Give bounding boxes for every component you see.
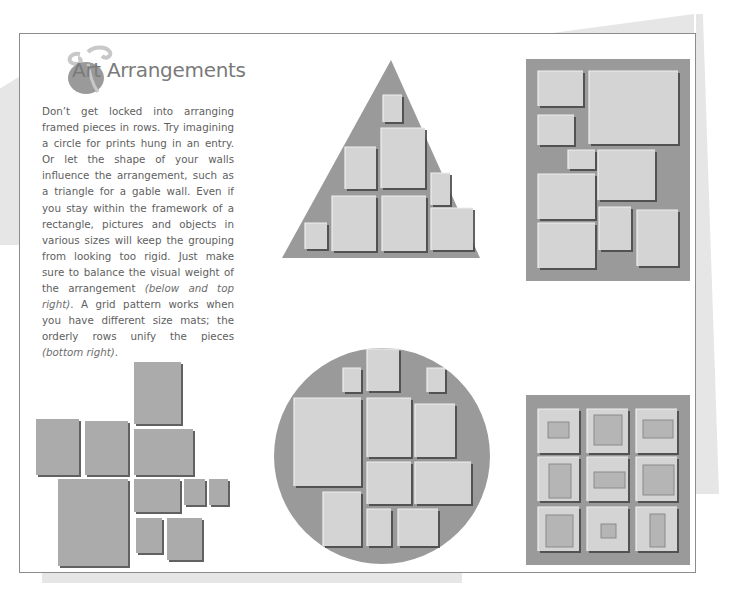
picture-frame	[538, 71, 583, 106]
grid-arrangement	[526, 395, 690, 565]
picture-frame	[367, 398, 411, 457]
picture-frame	[398, 509, 438, 546]
picture-frame	[345, 147, 376, 189]
picture-frame	[599, 207, 631, 250]
mat-opening	[548, 422, 569, 438]
matted-frame	[636, 409, 677, 453]
picture-frame	[294, 398, 361, 486]
matted-frame	[636, 457, 677, 501]
picture-frame	[134, 429, 193, 475]
picture-frame	[598, 150, 655, 200]
picture-frame	[381, 128, 425, 188]
mat-opening	[546, 515, 573, 547]
picture-frame	[209, 479, 228, 505]
triangle-arrangement	[282, 60, 480, 258]
picture-frame	[589, 71, 678, 144]
picture-frame	[343, 368, 361, 392]
picture-frame	[383, 95, 402, 122]
matted-frame	[636, 507, 677, 551]
matted-frame	[538, 409, 579, 453]
picture-frame	[367, 462, 411, 504]
picture-frame	[367, 349, 399, 391]
picture-frame	[134, 362, 181, 424]
picture-frame	[538, 223, 595, 268]
matted-frame	[587, 457, 628, 501]
matted-frame	[587, 409, 628, 453]
matted-frame	[538, 507, 579, 551]
loose-arrangement	[36, 362, 228, 566]
picture-frame	[184, 479, 205, 505]
rectangle-arrangement	[526, 59, 690, 281]
picture-frame	[136, 518, 162, 553]
picture-frame	[431, 208, 473, 250]
picture-frame	[382, 196, 426, 251]
mat-opening	[601, 524, 616, 538]
picture-frame	[637, 210, 678, 266]
picture-frame	[367, 509, 391, 546]
mat-opening	[594, 415, 622, 445]
mat-opening	[643, 465, 674, 495]
matted-frame	[538, 457, 579, 501]
picture-frame	[305, 223, 327, 249]
matted-frame	[587, 507, 628, 551]
mat-opening	[594, 472, 625, 488]
picture-frame	[427, 368, 445, 392]
picture-frame	[36, 419, 79, 475]
arrangement-illustrations	[0, 0, 743, 605]
picture-frame	[85, 421, 128, 475]
mat-opening	[643, 420, 673, 438]
picture-frame	[332, 196, 376, 251]
picture-frame	[323, 492, 361, 546]
picture-frame	[538, 115, 574, 145]
picture-frame	[538, 174, 595, 219]
picture-frame	[431, 173, 450, 205]
picture-frame	[134, 479, 180, 512]
mat-opening	[549, 464, 571, 498]
picture-frame	[415, 462, 471, 504]
picture-frame	[415, 404, 455, 457]
picture-frame	[167, 518, 202, 560]
picture-frame	[568, 150, 595, 169]
mat-opening	[650, 514, 665, 547]
picture-frame	[58, 479, 128, 566]
circle-arrangement	[274, 348, 490, 564]
